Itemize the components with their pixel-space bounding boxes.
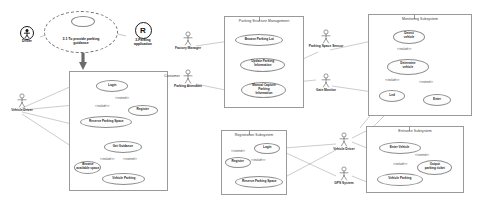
goal-bubble: 3.1 To provide parking guidance	[44, 11, 118, 53]
system-title-parking-structure-management: Parking Structure Management	[211, 19, 316, 23]
stick-figure-icon	[14, 93, 30, 108]
actor-vehicle-driver-left-label: Vehicle Driver	[1, 108, 43, 112]
connector-label-include-2: <<include>>	[100, 158, 114, 161]
actor-vehicle-driver-mid[interactable]: Vehicle Driver	[336, 132, 352, 147]
actor-parking-application-label: 3-Parking application	[121, 40, 165, 48]
usecase-reserve-parking-space-label: Reserve Parking Space	[89, 120, 123, 124]
usecase-reg-login-label: Login	[263, 147, 271, 151]
actor-gps-system[interactable]: GPS System	[336, 166, 352, 181]
usecase-get-guidance-label: Get Guidance	[113, 145, 133, 149]
system-title-customer: Customer	[53, 74, 184, 78]
actor-driver-label: Driver	[8, 41, 47, 45]
actor-driver[interactable]: Driver	[12, 26, 42, 44]
system-boundary-monitoring-subsystem: Monitoring Subsystem Detect vehicle Dete…	[368, 14, 472, 116]
usecase-enter-vehicle-label: Enter Vehicle	[390, 146, 410, 150]
stick-figure-icon	[180, 31, 196, 46]
usecase-reg-login[interactable]: Login	[254, 143, 280, 154]
actor-parking-space-sensor[interactable]: Parking Space Sensor	[318, 29, 334, 44]
usecase-reg-reserve-parking-space[interactable]: Reserve Parking Space	[235, 176, 283, 188]
system-boundary-parking-structure-management: Parking Structure Management Browse Park…	[224, 16, 304, 108]
actor-gate-monitor-label: Gate Monitor	[305, 88, 347, 92]
usecase-determine-vehicle[interactable]: Determine vehicle	[387, 59, 429, 75]
actor-factory-manager-label: Factory Manager	[167, 46, 209, 50]
connector-label-extend-1: <<extend>>	[115, 97, 129, 100]
usecase-ent-vehicle-parking[interactable]: Vehicle Parking	[377, 173, 423, 186]
usecase-browse-available-space-label: Browse available space	[76, 164, 99, 171]
usecase-reg-reserve-parking-space-label: Reserve Parking Space	[242, 180, 276, 184]
connector-label-ent-extend: <<extend>>	[415, 154, 429, 157]
actor-vehicle-driver-mid-label: Vehicle Driver	[323, 147, 365, 151]
connector-label-ent-include: <<include>>	[393, 163, 407, 166]
usecase-browse-available-space[interactable]: Browse available space	[74, 161, 101, 174]
connector-label-mon-include-2: <<include>>	[385, 79, 399, 82]
usecase-reg-register[interactable]: Register	[225, 157, 251, 168]
actor-gate-monitor[interactable]: Gate Monitor	[318, 73, 334, 88]
stick-figure-icon	[318, 29, 334, 44]
connector-label-reg-extend: <<extend>>	[231, 150, 245, 153]
usecase-enter-vehicle[interactable]: Enter Vehicle	[379, 142, 421, 154]
actor-gps-system-label: GPS System	[323, 181, 365, 185]
usecase-led[interactable]: Led	[379, 90, 405, 102]
usecase-led-label: Led	[389, 94, 395, 98]
usecase-reserve-parking-space[interactable]: Reserve Parking Space	[80, 116, 132, 128]
usecase-register[interactable]: Register	[128, 105, 158, 116]
usecase-detect-vehicle-label: Detect vehicle	[404, 33, 415, 40]
usecase-login[interactable]: Login	[96, 80, 128, 92]
usecase-get-guidance[interactable]: Get Guidance	[104, 141, 142, 153]
usecase-browse-parking-lot-label: Browse Parking Lot	[244, 38, 273, 42]
usecase-browse-parking-lot[interactable]: Browse Parking Lot	[235, 34, 283, 46]
connector-label-include-1: <<include>>	[95, 105, 109, 108]
usecase-manual-capture-parking-information[interactable]: Manual Capture Parking Information	[241, 82, 286, 98]
actor-parking-attendant-label: Parking Attendant	[167, 84, 209, 88]
usecase-login-label: Login	[108, 84, 116, 88]
usecase-update-parking-information-label: Update Parking Information	[251, 61, 274, 68]
usecase-detect-vehicle[interactable]: Detect vehicle	[393, 30, 425, 44]
stick-figure-icon	[336, 132, 352, 147]
goal-bubble-inner-ellipse	[71, 16, 95, 27]
goal-bubble-label: 3.1 To provide parking guidance	[34, 37, 128, 45]
stick-figure-icon	[318, 73, 334, 88]
r-badge-icon: R	[135, 22, 152, 39]
usecase-output-parking-ticket[interactable]: Output parking ticket	[417, 160, 452, 175]
usecase-enter[interactable]: Enter	[423, 94, 451, 106]
usecase-reg-register-label: Register	[232, 161, 244, 165]
system-title-entrance-subsystem: Entrance Subsystem	[350, 129, 480, 133]
usecase-ent-vehicle-parking-label: Vehicle Parking	[389, 178, 412, 182]
actor-parking-application[interactable]: R 3-Parking application	[126, 22, 160, 46]
actor-factory-manager[interactable]: Factory Manager	[180, 31, 196, 46]
system-boundary-customer: Customer Login Register Reserve Parking …	[69, 71, 168, 191]
usecase-determine-vehicle-label: Determine vehicle	[400, 63, 415, 70]
actor-vehicle-driver-left[interactable]: Vehicle Driver	[14, 93, 30, 108]
connector-label-reg-include: <<include>>	[251, 159, 265, 162]
system-boundary-registration-subsystem: Registration Subsystem Login Register Re…	[221, 130, 287, 195]
driver-icon	[20, 26, 34, 40]
usecase-register-label: Register	[137, 109, 149, 113]
usecase-manual-capture-parking-information-label: Manual Capture Parking Information	[252, 85, 275, 96]
system-title-registration-subsystem: Registration Subsystem	[211, 133, 297, 137]
usecase-vehicle-parking-label: Vehicle Parking	[112, 177, 135, 181]
usecase-update-parking-information[interactable]: Update Parking Information	[240, 58, 285, 72]
usecase-vehicle-parking[interactable]: Vehicle Parking	[102, 173, 145, 185]
connector-label-mon-include-1: <<include>>	[397, 48, 411, 51]
connector-label-extend-2: <<extend>>	[123, 158, 137, 161]
diagram-canvas: 3.1 To provide parking guidance Driver R…	[0, 0, 481, 205]
connector-label-mon-extend: <<extend>>	[419, 81, 433, 84]
system-title-monitoring-subsystem: Monitoring Subsystem	[351, 17, 481, 21]
usecase-output-parking-ticket-label: Output parking ticket	[424, 164, 444, 171]
stick-figure-icon	[336, 166, 352, 181]
usecase-enter-label: Enter	[433, 98, 441, 102]
actor-parking-space-sensor-label: Parking Space Sensor	[305, 44, 347, 48]
system-boundary-entrance-subsystem: Entrance Subsystem Enter Vehicle Output …	[366, 126, 464, 193]
